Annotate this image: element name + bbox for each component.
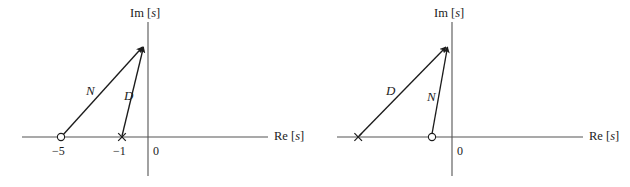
panel-right-graphic bbox=[315, 0, 630, 187]
pole-zero-figure: Im [s] Re [s] −5 −1 0 N D bbox=[0, 0, 630, 187]
imaginary-axis-label-left: Im [s] bbox=[130, 7, 160, 20]
vector-label-d-left: D bbox=[124, 89, 133, 102]
real-axis-label-right: Re [s] bbox=[589, 130, 619, 143]
origin-label-right: 0 bbox=[457, 145, 463, 157]
origin-label-left: 0 bbox=[153, 145, 159, 157]
vector-label-n-left: N bbox=[86, 84, 95, 97]
real-axis-label-left: Re [s] bbox=[274, 130, 304, 143]
tick-label-minus-five-left: −5 bbox=[52, 145, 65, 157]
panel-left: Im [s] Re [s] −5 −1 0 N D bbox=[0, 0, 315, 187]
tick-label-minus-one-left: −1 bbox=[113, 145, 126, 157]
imaginary-axis-label-right: Im [s] bbox=[434, 7, 464, 20]
zero-marker-right bbox=[428, 133, 435, 140]
zero-marker-left bbox=[57, 133, 64, 140]
panel-left-graphic bbox=[0, 0, 315, 187]
vector-label-d-right: D bbox=[386, 84, 395, 97]
panel-right: Im [s] Re [s] 0 D N bbox=[315, 0, 630, 187]
vector-label-n-right: N bbox=[427, 90, 436, 103]
